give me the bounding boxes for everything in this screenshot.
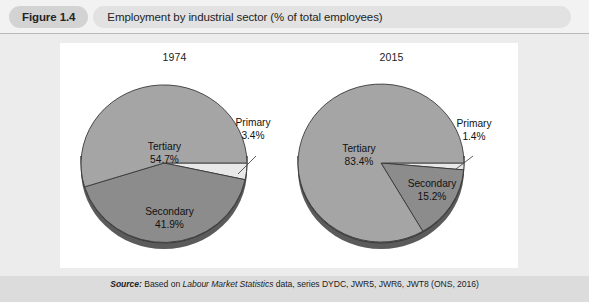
pie-chart-1974: 1974 Tertiary 54.7% Secondary 41.9% — [60, 43, 289, 268]
pie-svg-1974 — [60, 43, 289, 268]
source-italic-title: Labour Market Statistics — [182, 279, 273, 289]
caption-inner: Figure 1.4 Employment by industrial sect… — [9, 6, 571, 28]
caption-divider — [0, 33, 589, 34]
figure-number-badge: Figure 1.4 — [9, 6, 88, 28]
figure-caption-bar: Figure 1.4 Employment by industrial sect… — [0, 0, 589, 33]
pie-chart-2015: 2015 Tertiary 83.4% Secondary 15.2% — [289, 43, 518, 268]
source-text-before: Based on — [142, 279, 183, 289]
source-text-after: data, series DYDC, JWR5, JWR6, JWT8 (ONS… — [273, 279, 478, 289]
figure-source-bar: Source: Based on Labour Market Statistic… — [0, 276, 589, 302]
figure-source-text: Source: Based on Labour Market Statistic… — [0, 279, 589, 289]
source-lead: Source: — [110, 279, 142, 289]
figure-caption-text: Employment by industrial sector (% of to… — [93, 6, 571, 28]
figure-panel: Figure 1.4 Employment by industrial sect… — [0, 0, 589, 302]
pie-svg-2015 — [289, 43, 518, 268]
chart-plot-area: 1974 Tertiary 54.7% Secondary 41.9% — [60, 43, 518, 268]
